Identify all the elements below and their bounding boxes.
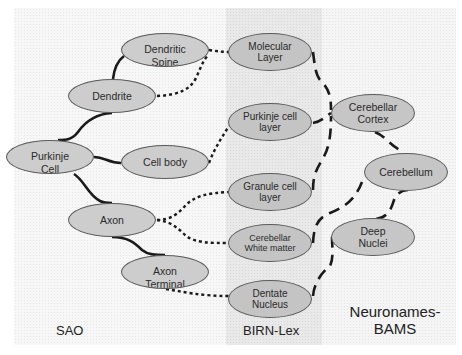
edge-dendritic-spine-molecular-layer xyxy=(209,50,229,52)
panel-label-birn-lex: BIRN-Lex xyxy=(243,323,299,338)
node-granule-cell-layer[interactable]: Granule cell layer xyxy=(228,173,312,211)
edge-dentate-nucleus-deep-nuclei xyxy=(313,237,333,296)
edge-axon-terminal-axon xyxy=(112,237,165,255)
edge-axon-purkinje-cell xyxy=(74,174,112,203)
node-deep-nuclei[interactable]: Deep Nuclei xyxy=(331,218,415,256)
node-cerebellum[interactable]: Cerebellum xyxy=(364,153,448,191)
edge-purkinje-cell-layer-cerebellar-cortex xyxy=(313,113,331,123)
node-cell-body[interactable]: Cell body xyxy=(121,145,209,179)
node-purkinje-cell-layer[interactable]: Purkinje cell layer xyxy=(228,103,312,141)
panel-label-sao: SAO xyxy=(56,323,83,338)
edge-deep-nuclei-cerebellum xyxy=(376,190,408,219)
node-cerebellar-white-matter[interactable]: Cerebellar White matter xyxy=(228,224,312,262)
node-dendritic-spine[interactable]: Dendritic Spine xyxy=(121,33,209,67)
node-cerebellar-cortex[interactable]: Cerebellar Cortex xyxy=(331,94,415,132)
node-axon-terminal[interactable]: Axon Terminal xyxy=(121,255,209,289)
edge-dendrite-purkinje-cell xyxy=(58,113,112,140)
edge-granule-cell-layer-cerebellar-cortex xyxy=(313,116,331,190)
edge-dendritic-spine-dendrite xyxy=(113,56,124,79)
edge-axon-cerebellar-white-matter xyxy=(157,220,229,243)
node-molecular-layer[interactable]: Molecular Layer xyxy=(228,33,312,71)
node-axon[interactable]: Axon xyxy=(68,203,156,237)
node-dentate-nucleus[interactable]: Dentate Nucleus xyxy=(228,280,312,318)
edge-cerebellar-cortex-cerebellum xyxy=(375,132,400,150)
edge-molecular-layer-cerebellar-cortex xyxy=(313,52,331,110)
node-dendrite[interactable]: Dendrite xyxy=(68,79,156,113)
panel-label-neuronames-bams: Neuronames- BAMS xyxy=(345,303,445,338)
edge-axon-terminal-dentate-nucleus xyxy=(166,289,229,296)
edge-cell-body-purkinje-cell-layer xyxy=(209,126,229,163)
edge-axon-granule-cell-layer xyxy=(157,192,229,220)
node-purkinje-cell[interactable]: Purkinje Cell xyxy=(6,140,94,174)
edge-cell-body-purkinje-cell xyxy=(94,157,121,163)
